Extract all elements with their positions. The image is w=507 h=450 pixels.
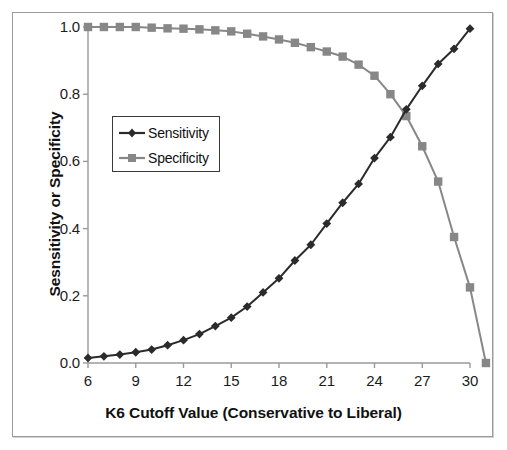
- legend-diamond-marker-icon: [118, 126, 146, 140]
- x-tick-label: 6: [84, 372, 92, 389]
- x-tick-label: 21: [318, 372, 335, 389]
- x-tick-label: 27: [414, 372, 431, 389]
- x-tick-label: 18: [271, 372, 288, 389]
- x-tick-label: 15: [223, 372, 240, 389]
- x-tick-label: 24: [366, 372, 383, 389]
- y-axis-title: Sesnsitivity or Specificity: [46, 54, 64, 354]
- x-tick-label: 12: [175, 372, 192, 389]
- x-axis-tick-labels: 6912151821242730: [0, 0, 507, 450]
- x-tick-label: 9: [132, 372, 140, 389]
- legend-item-sensitivity: Sensitivity: [113, 120, 219, 145]
- x-tick-label: 30: [462, 372, 479, 389]
- legend-label-specificity: Specificity: [148, 150, 209, 166]
- x-axis-title: K6 Cutoff Value (Conservative to Liberal…: [0, 404, 507, 422]
- chart-legend: Sensitivity Specificity: [112, 116, 220, 172]
- legend-square-marker-icon: [118, 151, 146, 165]
- legend-label-sensitivity: Sensitivity: [148, 125, 209, 141]
- legend-item-specificity: Specificity: [113, 145, 219, 170]
- chart-figure: 0.00.20.40.60.81.0 6912151821242730 Sesn…: [0, 0, 507, 450]
